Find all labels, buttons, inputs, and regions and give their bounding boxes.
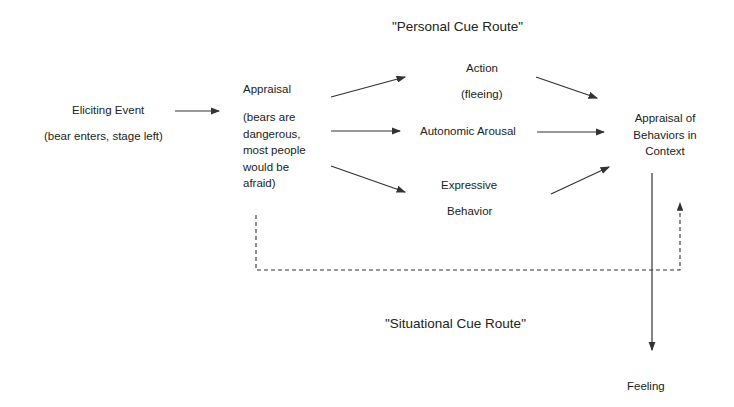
arrow-appraisal-to-action — [331, 77, 405, 97]
situational-cue-route-label: "Situational Cue Route" — [385, 317, 526, 331]
appraisal-of-behaviors-label: Appraisal of Behaviors in Context — [622, 110, 708, 160]
eliciting-event-detail: (bear enters, stage left) — [44, 129, 163, 143]
action-detail: (fleeing) — [461, 87, 503, 101]
eliciting-event-title: Eliciting Event — [72, 103, 144, 117]
action-title: Action — [466, 61, 498, 75]
appraisal-detail-line: afraid) — [243, 175, 306, 192]
context-line: Behaviors in — [622, 127, 708, 144]
arrow-action-to-context — [536, 77, 597, 98]
personal-cue-route-label: "Personal Cue Route" — [392, 20, 523, 34]
expressive-behavior-line1: Expressive — [441, 178, 497, 192]
autonomic-arousal-label: Autonomic Arousal — [420, 124, 516, 138]
context-line: Appraisal of — [622, 110, 708, 127]
feeling-label: Feeling — [627, 379, 665, 393]
appraisal-title: Appraisal — [243, 82, 291, 96]
appraisal-detail: (bears are dangerous, most people would … — [243, 109, 306, 192]
context-line: Context — [622, 143, 708, 160]
expressive-behavior-line2: Behavior — [447, 204, 492, 218]
appraisal-detail-line: most people — [243, 142, 306, 159]
appraisal-detail-line: (bears are — [243, 109, 306, 126]
arrow-expressive-to-context — [551, 167, 609, 194]
connector-layer — [0, 0, 734, 407]
appraisal-detail-line: dangerous, — [243, 126, 306, 143]
arrow-appraisal-to-expressive — [331, 166, 405, 192]
appraisal-detail-line: would be — [243, 159, 306, 176]
